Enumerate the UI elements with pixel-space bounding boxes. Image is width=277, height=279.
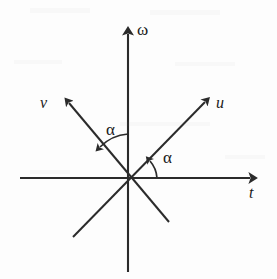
vector-diagram-figure: ω t u v α α xyxy=(0,0,277,279)
alpha-lower-arc xyxy=(150,161,157,178)
alpha-lower-label: α xyxy=(163,149,172,166)
alpha-upper-label: α xyxy=(106,121,115,138)
v-axis-line xyxy=(69,103,169,222)
omega-axis-label: ω xyxy=(137,21,148,38)
u-axis-line xyxy=(73,102,205,237)
axes-drawing xyxy=(0,0,277,279)
u-axis-label: u xyxy=(216,95,224,111)
t-axis-label: t xyxy=(249,185,253,201)
v-axis-label: v xyxy=(40,95,47,111)
